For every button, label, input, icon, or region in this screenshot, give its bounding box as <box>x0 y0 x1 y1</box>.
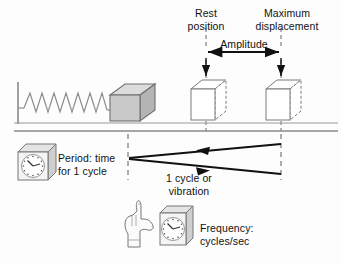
label-rest-position: Rest position <box>175 7 237 32</box>
label-amplitude: Amplitude <box>213 38 275 51</box>
coil-spring <box>18 93 113 112</box>
clock-icon-period <box>18 144 56 180</box>
outline-block-rest-position <box>191 80 226 120</box>
clock-icon-frequency <box>160 206 193 245</box>
pointing-hand-icon <box>125 201 153 247</box>
diagram-graphics <box>0 0 341 263</box>
floor-line <box>14 123 338 131</box>
solid-block-cube <box>110 84 155 121</box>
label-period: Period: time for 1 cycle <box>58 152 130 177</box>
physics-diagram: Rest position Maximum displacement Ampli… <box>0 0 341 263</box>
outline-block-maximum-displacement <box>266 80 301 120</box>
label-one-cycle-or-vibration: 1 cycle or vibration <box>152 172 226 197</box>
left-pointing-cycle-arrow <box>129 144 281 158</box>
label-maximum-displacement: Maximum displacement <box>242 7 332 32</box>
label-frequency: Frequency: cycles/sec <box>200 222 286 247</box>
